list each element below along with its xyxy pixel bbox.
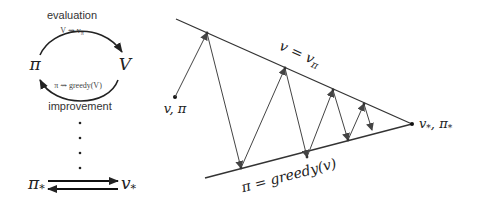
improve-step-arrow	[285, 68, 307, 157]
eval-step-arrow	[348, 104, 364, 140]
ellipsis-dot	[79, 122, 82, 125]
vertex-dot	[206, 32, 209, 35]
improve-step-arrow	[364, 104, 372, 130]
value-node: V	[119, 54, 133, 74]
vertex-dot	[332, 89, 335, 92]
vertex-dot	[306, 156, 309, 159]
policy-iteration-cycle: evaluation V ⇝ vπ π V π ⇝ greedy(V) impr…	[27, 9, 137, 195]
vertex-dot	[284, 67, 287, 70]
gpi-diagram: evaluation V ⇝ vπ π V π ⇝ greedy(V) impr…	[0, 0, 477, 206]
convergence-diagram: v, π v = vπ π = greedy(v) v*, π*	[164, 19, 453, 195]
eval-step-arrow	[241, 68, 285, 168]
vertex-dot	[240, 167, 243, 170]
ellipsis-dot	[79, 167, 82, 170]
greedy-line-label: π = greedy(v)	[238, 155, 338, 195]
optimum-point	[410, 122, 414, 126]
ellipsis-dot	[79, 152, 82, 155]
improve-step-arrow	[333, 90, 348, 140]
value-line	[176, 19, 412, 124]
optimal-value-label: v*	[121, 173, 137, 195]
improve-step-arrow	[207, 33, 241, 168]
policy-node: π	[28, 54, 41, 74]
vertex-dot	[363, 103, 366, 106]
eval-step-arrow	[307, 90, 333, 157]
ellipsis-dot	[79, 137, 82, 140]
eval-step-arrow	[175, 33, 207, 97]
evaluation-label: evaluation	[47, 9, 97, 21]
vertex-dot	[347, 139, 350, 142]
improvement-label: improvement	[48, 100, 112, 112]
optimal-policy-label: π*	[27, 173, 45, 195]
start-label: v, π	[164, 101, 187, 116]
improvement-sublabel: π ⇝ greedy(V)	[54, 81, 102, 90]
optimum-label: v*, π*	[419, 116, 453, 133]
